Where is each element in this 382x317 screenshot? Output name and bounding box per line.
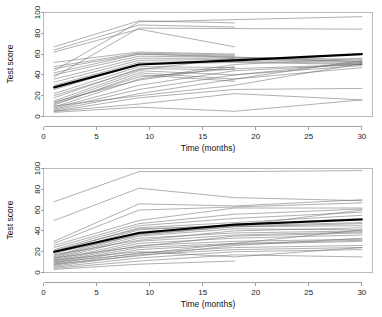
panel-top-xaxis-title: Time (months) (181, 143, 236, 153)
ytick-label: 20 (33, 247, 42, 256)
ytick-label: 100 (33, 5, 42, 19)
xtick-label: 20 (251, 132, 260, 141)
panel-top-svg: 020406080100 051015202530 Time (months) … (0, 0, 382, 158)
panel-bottom-svg: 020406080100 051015202530 Time (months) … (0, 158, 382, 316)
series-line (54, 66, 362, 110)
series-line (54, 203, 362, 244)
panel-bottom-xticks: 051015202530 (41, 283, 367, 297)
xtick-label: 30 (357, 288, 366, 297)
chart-panel-bottom: 020406080100 051015202530 Time (months) … (0, 158, 382, 316)
series-line (54, 58, 362, 107)
xtick-label: 25 (304, 288, 313, 297)
xtick-label: 20 (251, 288, 260, 297)
series-line (54, 248, 362, 260)
ytick-label: 60 (33, 205, 42, 214)
panel-top-yaxis-title: Test score (5, 44, 15, 83)
ytick-label: 40 (33, 70, 42, 79)
ytick-label: 0 (33, 270, 42, 275)
panel-bottom-xaxis-title: Time (months) (181, 299, 236, 309)
ytick-label: 80 (33, 28, 42, 37)
series-line (54, 261, 234, 269)
xtick-label: 10 (145, 132, 154, 141)
xtick-label: 15 (198, 132, 207, 141)
ytick-label: 100 (33, 161, 42, 175)
panel-bottom-yaxis-title: Test score (5, 200, 15, 239)
ytick-label: 80 (33, 184, 42, 193)
xtick-label: 25 (304, 132, 313, 141)
series-line (54, 171, 362, 202)
chart-panel-top: 020406080100 051015202530 Time (months) … (0, 0, 382, 158)
panel-top-series (54, 17, 362, 113)
panel-bottom-series (54, 171, 362, 270)
xtick-label: 5 (94, 132, 99, 141)
spaghetti-plot-figure: 020406080100 051015202530 Time (months) … (0, 0, 382, 317)
xtick-label: 10 (145, 288, 154, 297)
series-line (54, 94, 362, 112)
ytick-label: 40 (33, 226, 42, 235)
series-line (54, 29, 234, 52)
ytick-label: 0 (33, 114, 42, 119)
series-line (54, 21, 234, 47)
xtick-label: 30 (357, 132, 366, 141)
ytick-label: 60 (33, 49, 42, 58)
series-line (54, 100, 362, 112)
xtick-label: 0 (41, 288, 46, 297)
xtick-label: 0 (41, 132, 46, 141)
xtick-label: 5 (94, 288, 99, 297)
panel-bottom-yticks: 020406080100 (33, 161, 44, 274)
xtick-label: 15 (198, 288, 207, 297)
ytick-label: 20 (33, 91, 42, 100)
series-line (54, 25, 234, 50)
panel-top-yticks: 020406080100 (33, 5, 44, 118)
panel-top-xticks: 051015202530 (41, 127, 367, 141)
